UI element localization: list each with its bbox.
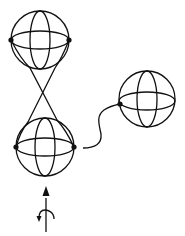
diagram-canvas bbox=[0, 0, 185, 236]
right-sphere-outline bbox=[119, 71, 175, 127]
top-sphere-meridian bbox=[30, 11, 50, 69]
cross-line-2 bbox=[16, 40, 69, 147]
right-sphere bbox=[117, 71, 175, 127]
bottom-sphere bbox=[13, 118, 76, 176]
bottom-sphere-left-dot bbox=[13, 144, 18, 149]
top-sphere-equator bbox=[11, 31, 69, 49]
bottom-sphere-right-dot bbox=[71, 144, 76, 149]
right-sphere-dot bbox=[117, 101, 122, 106]
bottom-sphere-equator bbox=[16, 138, 74, 156]
rotation-arrowhead-icon bbox=[37, 216, 42, 222]
right-sphere-equator bbox=[119, 92, 175, 110]
wavy-connector bbox=[83, 104, 120, 148]
up-arrow-icon bbox=[43, 186, 50, 196]
right-sphere-meridian bbox=[137, 71, 157, 127]
rotation-arrow bbox=[37, 186, 55, 232]
top-sphere bbox=[8, 11, 71, 69]
diagram-svg bbox=[0, 0, 185, 236]
bottom-sphere-outline bbox=[16, 118, 74, 176]
bottom-sphere-meridian bbox=[35, 118, 55, 176]
